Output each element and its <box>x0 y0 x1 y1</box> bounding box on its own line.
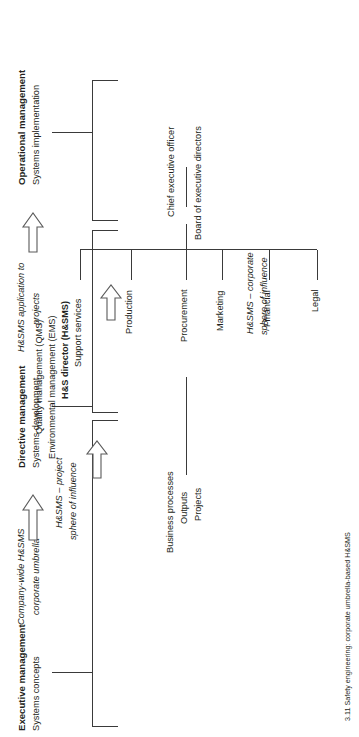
bracket-right-operational <box>92 80 118 81</box>
bracket-left-directive <box>92 412 118 413</box>
figure-caption: 3.11 Safety engineering: corporate umbre… <box>343 532 352 721</box>
executive-management-title: Executive management <box>16 624 28 731</box>
operational-management-title: Operational management <box>16 70 28 185</box>
bracket-right-executive <box>92 420 118 421</box>
project-sphere-line2: sphere of influence <box>68 462 79 540</box>
tick-production <box>131 250 132 280</box>
corporate-sphere-line1: H&SMS – corporate <box>245 252 256 334</box>
output-item-projects: Projects <box>193 488 204 521</box>
bracket-top-operational <box>92 81 93 221</box>
connector-ceo-board <box>186 167 187 207</box>
tick-legal <box>317 250 318 280</box>
bracket-stem-operational <box>52 132 92 133</box>
hs-director-qms-label: Quality management (QMS) <box>34 320 45 434</box>
department-label-support-services: Support services <box>73 299 84 367</box>
bracket-stem-executive <box>52 672 92 673</box>
connector-board-spine <box>186 224 187 250</box>
tick-marketing <box>222 250 223 280</box>
hs-director-ems-label: Environmental management (EMS) <box>47 316 58 460</box>
block-arrow-right-icon-hsdirector <box>86 440 108 478</box>
connector-outputs <box>186 377 187 475</box>
executive-note-line1: Company-wide H&SMS <box>16 528 27 625</box>
bracket-right-directive <box>92 230 118 231</box>
directive-note-line1: H&SMS application to <box>16 263 27 352</box>
board-of-executive-directors-label: Board of executive directors <box>193 126 204 240</box>
output-item-business-processes: Business processes <box>165 471 176 553</box>
block-arrow-right-icon-directive <box>22 212 44 252</box>
chief-executive-officer-label: Chief executive officer <box>166 127 177 217</box>
output-item-outputs: Outputs <box>179 492 190 524</box>
block-arrow-right-icon-production <box>100 284 122 320</box>
executive-management-subtitle: Systems concepts <box>31 656 42 731</box>
executive-note-line2: corporate umbrella <box>31 538 42 615</box>
block-arrow-right-icon-executive <box>22 494 44 540</box>
directive-management-title: Directive management <box>16 366 28 468</box>
tick-procurement <box>186 250 187 280</box>
figure-canvas: Executive management Systems concepts Co… <box>0 0 359 737</box>
department-label-marketing: Marketing <box>215 291 226 331</box>
department-label-legal: Legal <box>310 290 321 312</box>
bracket-left-operational <box>92 220 118 221</box>
bracket-left-executive <box>92 726 118 727</box>
department-label-procurement: Procurement <box>179 289 190 342</box>
org-spine-upper <box>80 249 131 250</box>
bracket-top-directive <box>92 231 93 413</box>
tick-support-services <box>80 250 81 280</box>
department-label-production: Production <box>124 290 135 334</box>
operational-management-subtitle: Systems implementation <box>31 85 42 185</box>
project-sphere-line1: H&SMS – project <box>54 458 65 528</box>
org-spine <box>131 249 317 250</box>
corporate-sphere-line2: sphere of influence <box>259 257 270 335</box>
hs-director-label: H&S director (H&SMS) <box>60 301 71 399</box>
